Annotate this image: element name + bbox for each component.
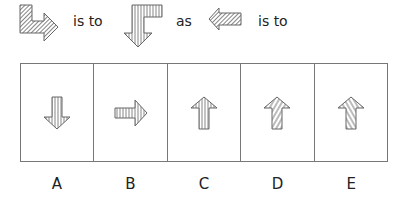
as-text: as	[176, 13, 192, 29]
l-shaped-arrow-down-icon	[122, 3, 164, 49]
l-shaped-arrow-right-icon	[18, 3, 60, 43]
arrow-right-icon	[113, 98, 149, 128]
option-label-b: B	[94, 175, 168, 193]
arrow-up-icon	[262, 95, 292, 131]
is-to-text-1: is to	[73, 13, 103, 29]
arrow-up-icon	[336, 95, 366, 131]
option-e-box[interactable]	[315, 64, 387, 161]
option-a-box[interactable]	[21, 64, 94, 161]
options-grid	[20, 63, 388, 162]
option-labels: A B C D E	[20, 175, 388, 193]
arrow-down-icon	[42, 95, 72, 131]
is-to-text-2: is to	[258, 13, 288, 29]
option-label-c: C	[167, 175, 241, 193]
option-label-e: E	[314, 175, 388, 193]
option-b-box[interactable]	[94, 64, 167, 161]
arrow-left-icon	[207, 6, 243, 32]
arrow-up-icon	[189, 95, 219, 131]
option-label-a: A	[20, 175, 94, 193]
option-label-d: D	[241, 175, 315, 193]
option-c-box[interactable]	[168, 64, 241, 161]
option-d-box[interactable]	[241, 64, 314, 161]
